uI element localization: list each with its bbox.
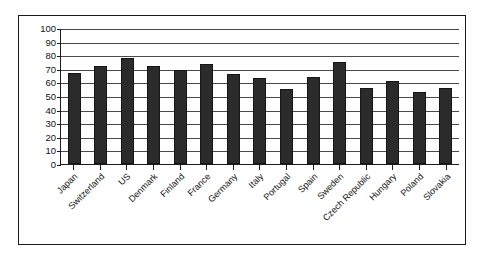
x-tick-slot — [60, 165, 87, 170]
bar-slot — [88, 29, 115, 164]
x-tick-mark — [126, 165, 127, 170]
y-tick-label: 50 — [45, 92, 56, 102]
x-axis-labels: JapanSwitzerlandUSDenmarkFinlandFranceGe… — [60, 171, 459, 231]
y-tick-label: 10 — [45, 147, 56, 157]
x-tick-slot — [432, 165, 459, 170]
bar-series — [61, 29, 459, 164]
y-tick-label: 0 — [51, 160, 56, 170]
x-axis-ticks — [60, 165, 459, 170]
x-tick-mark — [73, 165, 74, 170]
x-tick-mark — [419, 165, 420, 170]
x-label-slot: Slovakia — [432, 171, 459, 231]
bar-slot — [167, 29, 194, 164]
x-tick-mark — [206, 165, 207, 170]
x-label-slot: Germany — [220, 171, 247, 231]
bar-france[interactable] — [200, 64, 213, 164]
x-axis-label-spain: Spain — [296, 172, 319, 195]
bar-italy[interactable] — [253, 78, 266, 164]
x-tick-mark — [233, 165, 234, 170]
x-tick-slot — [87, 165, 114, 170]
bar-slot — [194, 29, 221, 164]
bar-slot — [61, 29, 88, 164]
y-tick-label: 30 — [45, 119, 56, 129]
bar-slot — [114, 29, 141, 164]
x-tick-slot — [353, 165, 380, 170]
bar-slot — [141, 29, 168, 164]
x-tick-slot — [140, 165, 167, 170]
x-tick-slot — [246, 165, 273, 170]
y-tick-label: 90 — [45, 38, 56, 48]
bar-slot — [432, 29, 459, 164]
bar-poland[interactable] — [413, 92, 426, 164]
bar-hungary[interactable] — [386, 81, 399, 164]
y-tick-label: 80 — [45, 51, 56, 61]
x-tick-mark — [313, 165, 314, 170]
x-tick-mark — [180, 165, 181, 170]
x-tick-mark — [339, 165, 340, 170]
y-tick-label: 70 — [45, 65, 56, 75]
x-axis-label-us: US — [118, 172, 133, 187]
bar-slot — [273, 29, 300, 164]
x-tick-mark — [100, 165, 101, 170]
x-label-slot: Hungary — [379, 171, 406, 231]
x-tick-slot — [166, 165, 193, 170]
bar-denmark[interactable] — [147, 66, 160, 164]
bar-germany[interactable] — [227, 74, 240, 164]
x-tick-mark — [259, 165, 260, 170]
bar-finland[interactable] — [174, 70, 187, 164]
x-tick-slot — [326, 165, 353, 170]
bar-slot — [326, 29, 353, 164]
chart-figure-frame: 1009080706050403020100 JapanSwitzerlandU… — [18, 15, 466, 245]
x-tick-mark — [286, 165, 287, 170]
bar-slot — [247, 29, 274, 164]
y-tick-label: 20 — [45, 133, 56, 143]
bar-spain[interactable] — [307, 77, 320, 164]
x-tick-mark — [446, 165, 447, 170]
x-tick-mark — [392, 165, 393, 170]
x-tick-mark — [153, 165, 154, 170]
x-tick-mark — [366, 165, 367, 170]
bar-slot — [406, 29, 433, 164]
x-label-slot: Portugal — [273, 171, 300, 231]
x-tick-slot — [113, 165, 140, 170]
bar-us[interactable] — [121, 58, 134, 164]
x-axis-label-japan: Japan — [56, 172, 80, 196]
bar-slot — [300, 29, 327, 164]
x-label-slot: Denmark — [140, 171, 167, 231]
x-label-slot: Finland — [166, 171, 193, 231]
bar-slot — [220, 29, 247, 164]
bar-slot — [353, 29, 380, 164]
chart-plot-area: 1009080706050403020100 — [60, 29, 459, 165]
y-tick-label: 100 — [40, 24, 56, 34]
x-axis-label-italy: Italy — [248, 172, 266, 190]
x-tick-slot — [193, 165, 220, 170]
bar-sweden[interactable] — [333, 62, 346, 164]
y-tick-label: 60 — [45, 79, 56, 89]
x-label-slot: Switzerland — [87, 171, 114, 231]
bar-slovakia[interactable] — [439, 88, 452, 164]
x-tick-slot — [406, 165, 433, 170]
x-tick-slot — [379, 165, 406, 170]
x-tick-slot — [273, 165, 300, 170]
x-tick-slot — [220, 165, 247, 170]
bar-switzerland[interactable] — [94, 66, 107, 164]
bar-japan[interactable] — [68, 73, 81, 164]
bar-portugal[interactable] — [280, 89, 293, 164]
bar-slot — [379, 29, 406, 164]
y-tick-label: 40 — [45, 106, 56, 116]
x-tick-slot — [299, 165, 326, 170]
bar-czech-republic[interactable] — [360, 88, 373, 164]
